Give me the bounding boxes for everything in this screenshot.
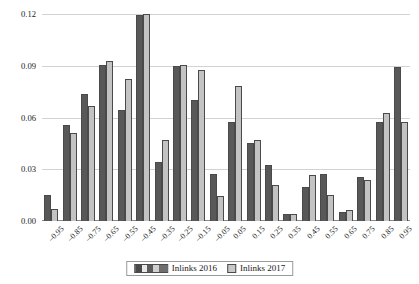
bar-group [189, 14, 207, 221]
x-tick: –0.25 [171, 222, 189, 262]
bar-2016 [302, 187, 309, 222]
bar-2016 [320, 174, 327, 221]
legend-label-2017: Inlinks 2017 [240, 264, 285, 273]
bar-group [355, 14, 373, 221]
legend-item-inlinks-2016: Inlinks 2016 [134, 264, 217, 273]
bar-2017 [198, 70, 205, 221]
x-tick: –0.15 [189, 222, 207, 262]
bar-2016 [173, 66, 180, 221]
legend-label-2016: Inlinks 2016 [172, 264, 217, 273]
bar-2017 [180, 65, 187, 221]
bar-2016 [228, 122, 235, 221]
bar-group [244, 14, 262, 221]
bar-2017 [70, 133, 77, 221]
bar-2016 [155, 162, 162, 221]
bar-2017 [327, 195, 334, 221]
bar-group [300, 14, 318, 221]
bar-2016 [63, 125, 70, 221]
bar-2017 [364, 180, 371, 221]
x-tick: 0.35 [281, 222, 299, 262]
bar-2017 [162, 140, 169, 221]
bar-2017 [272, 185, 279, 221]
x-tick: 0.75 [355, 222, 373, 262]
bar-group [337, 14, 355, 221]
y-tick-label: 0.00 [0, 217, 36, 226]
bar-group [171, 14, 189, 221]
bar-2016 [283, 214, 290, 221]
x-tick: –0.45 [134, 222, 152, 262]
plot-area [42, 14, 410, 221]
bar-2017 [106, 61, 113, 221]
x-tick: 0.15 [244, 222, 262, 262]
bar-2017 [217, 196, 224, 221]
x-tick: 0.65 [337, 222, 355, 262]
bar-2017 [383, 113, 390, 221]
bar-2016 [357, 177, 364, 221]
grouped-bar-chart: 0.12 0.09 0.06 0.03 0.00 –0.95–0.85–0.75… [0, 0, 419, 284]
bar-groups [42, 14, 410, 221]
y-axis: 0.12 0.09 0.06 0.03 0.00 [0, 0, 42, 284]
x-tick: 0.25 [263, 222, 281, 262]
bar-group [263, 14, 281, 221]
bar-2017 [235, 86, 242, 221]
bar-group [79, 14, 97, 221]
chart-legend: Inlinks 2016 Inlinks 2017 [126, 261, 294, 276]
bar-2016 [44, 195, 51, 221]
bar-group [373, 14, 391, 221]
x-tick: –0.65 [97, 222, 115, 262]
bar-2016 [394, 67, 401, 221]
bar-2017 [401, 122, 408, 221]
bar-group [116, 14, 134, 221]
x-tick: –0.35 [152, 222, 170, 262]
bar-2017 [143, 14, 150, 221]
bar-group [152, 14, 170, 221]
bar-2016 [247, 143, 254, 221]
bar-group [226, 14, 244, 221]
x-tick: –0.55 [116, 222, 134, 262]
bar-group [208, 14, 226, 221]
bar-2017 [88, 106, 95, 221]
legend-item-inlinks-2017: Inlinks 2017 [227, 264, 285, 273]
bar-2016 [210, 174, 217, 221]
bar-group [42, 14, 60, 221]
bar-group [281, 14, 299, 221]
bar-2017 [254, 140, 261, 221]
bar-2016 [136, 15, 143, 221]
bar-group [60, 14, 78, 221]
y-tick-label: 0.12 [0, 10, 36, 19]
x-axis-labels: –0.95–0.85–0.75–0.65–0.55–0.45–0.35–0.25… [42, 222, 410, 262]
x-tick: –0.85 [60, 222, 78, 262]
bar-2016 [99, 65, 106, 221]
bar-2017 [125, 79, 132, 221]
x-tick: 0.45 [300, 222, 318, 262]
bar-2016 [265, 165, 272, 221]
x-tick-label: 0.95 [398, 225, 414, 241]
x-tick: 0.05 [226, 222, 244, 262]
bar-2016 [191, 100, 198, 221]
bar-2017 [346, 210, 353, 221]
bar-2016 [339, 212, 346, 221]
y-tick-label: 0.06 [0, 114, 36, 123]
bar-2016 [376, 122, 383, 221]
x-tick: –0.95 [42, 222, 60, 262]
bar-2017 [309, 175, 316, 221]
x-tick: 0.95 [392, 222, 410, 262]
y-tick-label: 0.03 [0, 165, 36, 174]
x-tick: 0.55 [318, 222, 336, 262]
series-2016-swatch-icon [134, 264, 168, 273]
bar-group [134, 14, 152, 221]
bar-group [392, 14, 410, 221]
bar-2017 [51, 209, 58, 221]
series-2017-swatch-icon [227, 264, 236, 273]
x-tick: –0.05 [208, 222, 226, 262]
bar-group [318, 14, 336, 221]
bar-group [97, 14, 115, 221]
x-tick: 0.85 [373, 222, 391, 262]
bar-2017 [290, 214, 297, 221]
bar-2016 [81, 94, 88, 221]
x-tick: –0.75 [79, 222, 97, 262]
bar-2016 [118, 110, 125, 221]
y-tick-label: 0.09 [0, 62, 36, 71]
